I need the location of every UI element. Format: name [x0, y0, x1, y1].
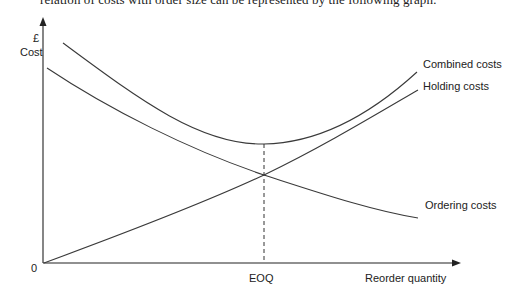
holding-costs-label: Holding costs: [423, 80, 490, 92]
pound-symbol-label: £: [33, 32, 39, 44]
ordering-costs-label: Ordering costs: [425, 199, 497, 211]
x-axis-label: Reorder quantity: [365, 272, 447, 284]
eoq-chart: £ Cost 0 EOQ Reorder quantity Combined c…: [0, 0, 516, 298]
ordering-costs-curve: [47, 68, 418, 218]
eoq-label: EOQ: [249, 272, 274, 284]
combined-costs-label: Combined costs: [423, 58, 502, 70]
combined-costs-curve: [63, 43, 417, 144]
origin-label: 0: [31, 262, 37, 274]
y-axis-arrow-icon: [40, 17, 47, 26]
y-axis-label: Cost: [20, 46, 43, 58]
x-axis-arrow-icon: [452, 260, 461, 267]
holding-costs-curve: [44, 90, 418, 263]
